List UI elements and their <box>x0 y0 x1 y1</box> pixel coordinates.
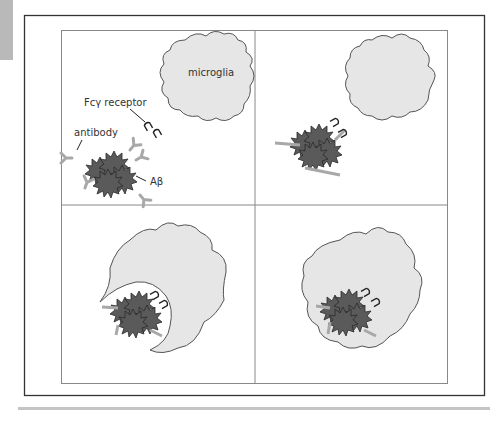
fc-receptor-label: Fcγ receptor <box>84 97 147 108</box>
antibody-icon <box>134 150 149 164</box>
antibody-icon <box>136 192 151 207</box>
antibody-icon <box>126 138 141 153</box>
fc-receptor-icon <box>159 300 168 309</box>
panel-1: microglia Fcγ receptor antibody Aβ <box>61 31 254 206</box>
panel-2 <box>275 34 435 175</box>
bottom-rule <box>18 407 490 410</box>
amyloid-beta-cluster <box>85 151 137 198</box>
fc-receptor-icon <box>153 128 162 137</box>
fc-receptor-icon <box>150 291 159 300</box>
antibody-icon <box>61 153 72 163</box>
microglia-cell <box>100 223 226 353</box>
fc-receptor-icon <box>144 121 153 130</box>
figure-canvas: microglia Fcγ receptor antibody Aβ <box>0 0 498 422</box>
microglia-cell <box>302 227 422 348</box>
amyloid-beta-label: Aβ <box>150 176 163 187</box>
panel-4 <box>302 227 422 348</box>
microglia-label: microglia <box>188 67 234 78</box>
fc-receptor-icon <box>330 118 339 127</box>
antibody-label: antibody <box>74 127 118 138</box>
amyloid-beta-cluster <box>290 124 342 171</box>
microglia-cell <box>345 34 435 120</box>
panel-3 <box>100 223 226 353</box>
